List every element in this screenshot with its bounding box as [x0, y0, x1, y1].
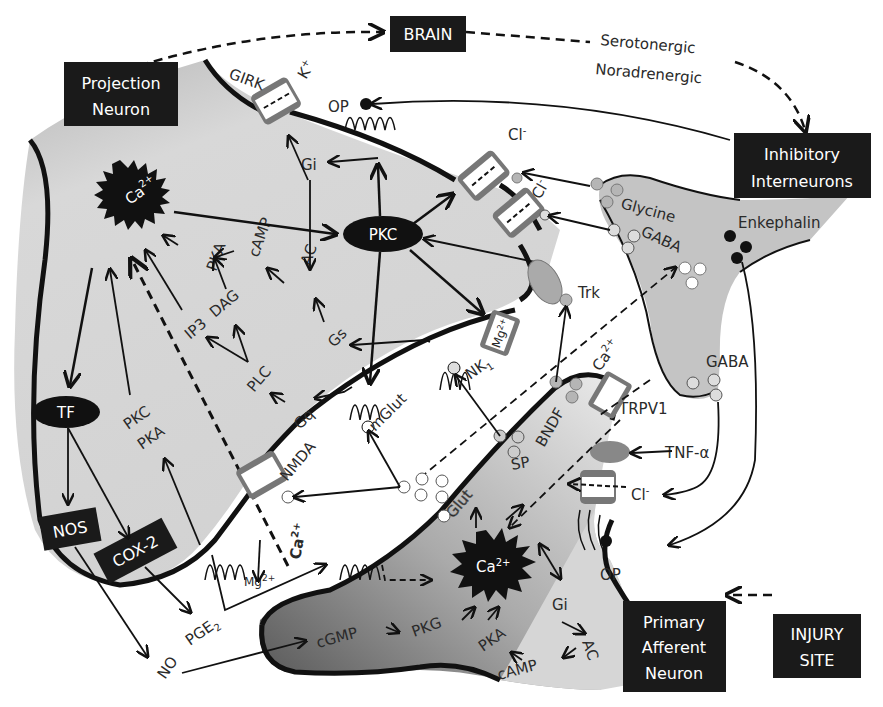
- nmda-label: NMDA: [276, 437, 320, 484]
- svg-text:Neuron: Neuron: [92, 100, 150, 119]
- cl-label-primary: Cl-: [631, 485, 650, 504]
- pge2-receptor: [205, 565, 245, 580]
- injury-site-box: INJURY SITE: [773, 614, 861, 678]
- op-label-primary: OP: [600, 566, 621, 584]
- inhibitory-interneurons-box: Inhibitory Interneurons: [734, 133, 871, 198]
- enkephalin-label: Enkephalin: [738, 214, 820, 232]
- svg-text:INJURY: INJURY: [791, 625, 844, 644]
- trk-label: Trk: [577, 284, 600, 302]
- gi-label-primary: Gi: [552, 596, 568, 614]
- brain-box: BRAIN: [390, 16, 466, 52]
- brain-label: BRAIN: [403, 25, 452, 44]
- no-label: NO: [154, 653, 182, 682]
- pkc-node: PKC: [343, 216, 423, 252]
- glut-vesicles: [282, 473, 450, 522]
- tnf-alpha-label: TNF-α: [664, 444, 709, 462]
- svg-text:Neuron: Neuron: [645, 664, 703, 683]
- noradrenergic-label: Noradrenergic: [595, 60, 703, 87]
- svg-text:Projection: Projection: [81, 74, 160, 93]
- tf-node: TF: [32, 396, 100, 428]
- op-label-projection: OP: [328, 98, 349, 116]
- svg-text:Inhibitory: Inhibitory: [764, 145, 840, 164]
- mg-out-label: Mg2+: [244, 573, 275, 589]
- svg-text:PKC: PKC: [369, 226, 398, 244]
- ca-label-trpv1: Ca2+: [588, 335, 623, 374]
- trpv1-label: TRPV1: [618, 400, 667, 418]
- tnf-receptor: [590, 441, 630, 463]
- svg-text:Afferent: Afferent: [642, 638, 706, 657]
- svg-text:Interneurons: Interneurons: [751, 172, 853, 191]
- svg-text:SITE: SITE: [800, 651, 835, 670]
- projection-neuron-box: Projection Neuron: [64, 62, 178, 126]
- svg-text:Primary: Primary: [643, 613, 705, 632]
- pge2-label: PGE2: [182, 614, 223, 651]
- primary-afferent-neuron-box: Primary Afferent Neuron: [623, 601, 726, 692]
- nk1-label: NK1: [462, 353, 496, 385]
- pain-pathway-diagram: BRAIN Projection Neuron Inhibitory Inter…: [0, 0, 883, 707]
- ca-in-nmda-label: Ca2+: [285, 521, 310, 560]
- cl-label-1: Cl-: [508, 125, 527, 144]
- serotonergic-label: Serotonergic: [600, 31, 697, 57]
- svg-text:TF: TF: [56, 404, 75, 422]
- gaba-label-bottom: GABA: [706, 353, 749, 371]
- k-label: K+: [293, 57, 319, 82]
